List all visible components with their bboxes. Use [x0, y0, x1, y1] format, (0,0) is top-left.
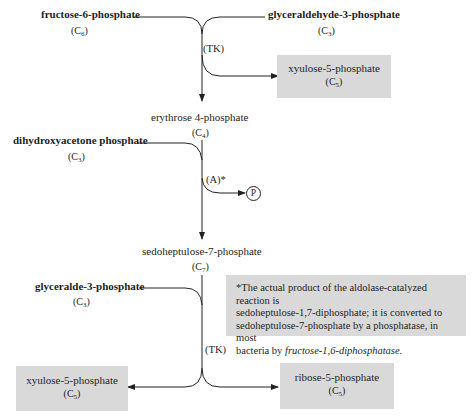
carbon-count: (C5)	[326, 75, 343, 92]
dhap-carbon-count: (C3)	[68, 151, 85, 166]
enzyme-tk-2: (TK)	[205, 344, 226, 356]
carbon-symbol: C	[329, 76, 336, 87]
glyceraldehyde-3-phosphate-label: glyceraldehyde-3-phosphate	[268, 8, 400, 20]
compound-name: glyceralde-3-phosphate	[35, 280, 144, 292]
carbon-symbol: C	[67, 388, 74, 399]
carbon-number: 3	[78, 156, 82, 164]
pentose-phosphate-diagram: fructose-6-phosphate (C6) glyceraldehyde…	[0, 0, 473, 416]
ribose-box: ribose-5-phosphate (C5)	[280, 363, 394, 409]
carbon-symbol: C	[195, 127, 202, 138]
glyceralde-3-phosphate-label: glyceralde-3-phosphate	[35, 280, 144, 292]
glyceraldehyde-carbon-count: (C3)	[318, 25, 335, 40]
xylulose-branch-arrow	[202, 55, 278, 76]
carbon-number: 5	[74, 393, 78, 401]
compound-name: glyceraldehyde-3-phosphate	[268, 8, 400, 20]
sedoheptulose-7-phosphate-label: sedoheptulose-7-phosphate	[142, 245, 262, 257]
footnote-line: sedoheptulose-1,7-diphosphate; it is con…	[236, 307, 458, 320]
footnote-line: bacteria by fructose-1,6-diphosphatase.	[236, 345, 458, 358]
carbon-symbol: C	[74, 25, 81, 36]
carbon-symbol: C	[332, 385, 339, 396]
erythrose-4-phosphate-label: erythrose 4-phosphate	[151, 111, 248, 123]
footnote-text: bacteria by	[236, 345, 285, 356]
carbon-count: (C5)	[64, 387, 81, 404]
compound-name: dihydroxyacetone phosphate	[13, 134, 148, 146]
carbon-symbol: C	[76, 296, 83, 307]
erythrose-carbon-count: (C4)	[192, 127, 209, 142]
compound-name: erythrose 4-phosphate	[151, 111, 248, 123]
carbon-symbol: C	[195, 261, 202, 272]
carbon-number: 4	[202, 132, 206, 140]
carbon-number: 7	[202, 266, 206, 274]
compound-name: xyulose-5-phosphate	[288, 62, 380, 75]
footnote-text: .	[400, 345, 403, 356]
ribose-right-arrow	[202, 368, 278, 387]
compound-name: xyulose-5-phosphate	[26, 374, 118, 387]
xylulose-box-bottom: xyulose-5-phosphate (C5)	[16, 366, 128, 411]
dihydroxyacetone-phosphate-label: dihydroxyacetone phosphate	[13, 134, 148, 146]
carbon-number: 5	[339, 390, 343, 398]
compound-name: fructose-6-phosphate	[41, 8, 140, 20]
carbon-number: 5	[336, 81, 340, 89]
compound-name: sedoheptulose-7-phosphate	[142, 245, 262, 257]
enzyme-tk-1: (TK)	[203, 43, 224, 55]
carbon-number: 3	[83, 301, 87, 309]
sedoheptulose-carbon-count: (C7)	[192, 261, 209, 276]
footnote-line: *The actual product of the aldolase-cata…	[236, 282, 458, 307]
glyceralde-carbon-count: (C3)	[73, 296, 90, 311]
carbon-count: (C5)	[329, 384, 346, 401]
footnote-line: sedoheptulose-7-phosphate by a phosphata…	[236, 320, 458, 345]
carbon-number: 3	[328, 30, 332, 38]
carbon-symbol: C	[71, 151, 78, 162]
fructose-input-line	[133, 17, 202, 34]
footnote-box: *The actual product of the aldolase-cata…	[226, 275, 466, 336]
phosphate-circle-icon: P	[246, 186, 261, 201]
carbon-symbol: C	[321, 25, 328, 36]
fructose-carbon-count: (C6)	[71, 25, 88, 40]
glyceralde-input-line	[139, 288, 202, 305]
enzyme-aldolase: (A)*	[206, 174, 226, 186]
carbon-number: 6	[81, 30, 85, 38]
xylulose-left-arrow	[128, 368, 202, 387]
compound-name: ribose-5-phosphate	[295, 371, 379, 384]
xylulose-box-top: xyulose-5-phosphate (C5)	[277, 55, 391, 98]
fructose-6-phosphate-label: fructose-6-phosphate	[41, 8, 140, 20]
enzyme-name: fructose-1,6-diphosphatase	[285, 345, 400, 356]
glyceraldehyde-input-line	[202, 17, 265, 34]
